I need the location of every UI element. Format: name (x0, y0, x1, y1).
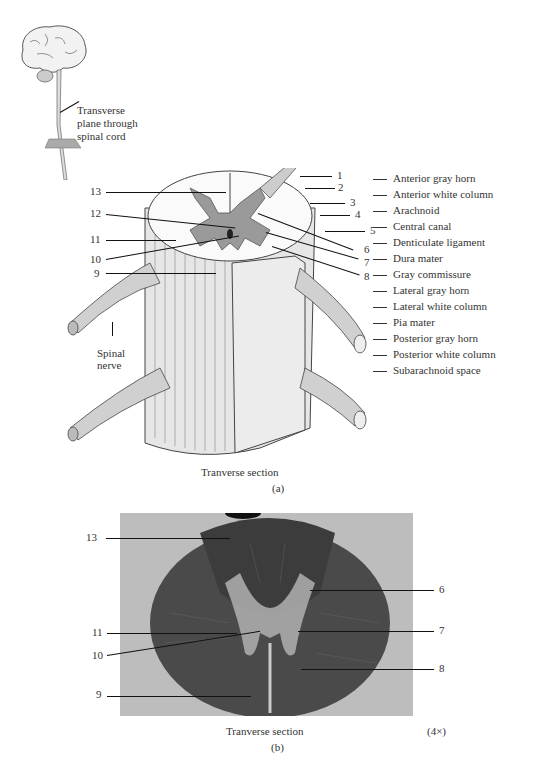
answer-blank[interactable] (373, 179, 387, 180)
callout-line-a-2 (305, 188, 335, 189)
figure-b-magnification: (4×) (427, 725, 446, 737)
key-item: Arachnoid (373, 204, 439, 216)
key-item: Denticulate ligament (373, 236, 485, 248)
callout-a-8: 8 (364, 271, 370, 282)
callout-line-b-9 (107, 696, 251, 697)
callout-line-b-6 (310, 590, 434, 591)
callout-line-a-3 (310, 203, 345, 204)
key-item: Dura mater (373, 252, 443, 264)
callout-a-11: 11 (90, 234, 101, 245)
callout-line-b-7 (298, 631, 434, 632)
key-item: Central canal (373, 220, 451, 232)
brain-spinal-cord-illustration (15, 20, 95, 180)
callout-a-2: 2 (338, 182, 344, 193)
callout-a-10: 10 (90, 254, 101, 265)
callout-a-3: 3 (350, 197, 356, 208)
answer-blank[interactable] (373, 227, 387, 228)
callout-line-b-8 (301, 669, 434, 670)
key-item: Posterior white column (373, 348, 496, 360)
callout-a-7: 7 (364, 257, 370, 268)
key-item: Pia mater (373, 316, 435, 328)
answer-blank[interactable] (373, 307, 387, 308)
inset-label: Transverse plane through spinal cord (77, 104, 138, 143)
figure-b-panel-label: (b) (271, 741, 284, 753)
callout-a-13: 13 (90, 186, 101, 197)
answer-blank[interactable] (373, 243, 387, 244)
key-item: Anterior white column (373, 188, 493, 200)
answer-blank[interactable] (373, 371, 387, 372)
answer-blank[interactable] (373, 211, 387, 212)
callout-line-a-13 (106, 192, 226, 193)
callout-line-a-5 (325, 231, 365, 232)
spinal-cord-illustration (60, 168, 370, 458)
callout-line-a-1 (300, 176, 332, 177)
callout-line-a-11 (106, 240, 176, 241)
callout-line-b-13 (106, 538, 230, 539)
key-item: Lateral white column (373, 300, 487, 312)
callout-b-7: 7 (439, 625, 445, 636)
callout-line-a-4 (320, 215, 350, 216)
figure-b-caption: Tranverse section (226, 725, 304, 737)
key-item: Gray commissure (373, 268, 471, 280)
answer-blank[interactable] (373, 275, 387, 276)
answer-blank[interactable] (373, 355, 387, 356)
callout-b-6: 6 (439, 584, 445, 595)
key-item: Subarachnoid space (373, 364, 481, 376)
answer-blank[interactable] (373, 259, 387, 260)
key-item: Anterior gray horn (373, 172, 475, 184)
spinal-nerve-pointer (112, 322, 113, 336)
spinal-cord-micrograph (120, 513, 413, 716)
callout-a-4: 4 (355, 209, 361, 220)
callout-a-6: 6 (364, 244, 370, 255)
callout-line-a-9 (106, 273, 216, 274)
brain-inset (15, 20, 95, 180)
callout-b-13: 13 (86, 532, 97, 543)
callout-a-12: 12 (90, 208, 101, 219)
key-item: Lateral gray horn (373, 284, 469, 296)
callout-a-1: 1 (337, 170, 343, 181)
figure-a-caption: Tranverse section (201, 466, 279, 478)
callout-b-11: 11 (92, 627, 103, 638)
callout-b-10: 10 (92, 650, 103, 661)
callout-a-9: 9 (94, 268, 100, 279)
callout-b-8: 8 (439, 663, 445, 674)
answer-blank[interactable] (373, 291, 387, 292)
answer-blank[interactable] (373, 195, 387, 196)
callout-line-b-11 (107, 633, 237, 634)
callout-b-9: 9 (96, 689, 102, 700)
spinal-nerve-label: Spinal nerve (97, 347, 125, 371)
answer-blank[interactable] (373, 323, 387, 324)
answer-blank[interactable] (373, 339, 387, 340)
key-item: Posterior gray horn (373, 332, 478, 344)
figure-a-panel-label: (a) (272, 482, 284, 494)
